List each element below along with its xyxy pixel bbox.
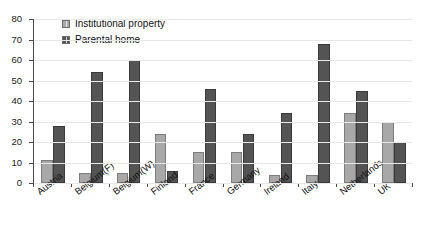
y-tick-label: 70 xyxy=(2,35,22,44)
y-gridline xyxy=(34,60,412,61)
y-gridline xyxy=(34,122,412,123)
legend: Institutional property Parental home xyxy=(62,17,165,49)
y-gridline xyxy=(34,142,412,143)
y-gridline xyxy=(34,81,412,82)
x-tick-mark xyxy=(412,183,413,187)
y-tick-label: 30 xyxy=(2,117,22,126)
legend-label: Institutional property xyxy=(75,19,165,29)
bar xyxy=(344,113,356,183)
y-tick-label: 50 xyxy=(2,76,22,85)
y-gridline xyxy=(34,101,412,102)
y-tick-label: 40 xyxy=(2,96,22,105)
y-gridline xyxy=(34,183,412,184)
bar xyxy=(205,89,217,183)
legend-swatch-icon xyxy=(62,20,70,28)
y-gridline xyxy=(34,40,412,41)
y-gridline xyxy=(34,163,412,164)
cropped-title xyxy=(0,0,427,7)
y-tick-label: 10 xyxy=(2,158,22,167)
y-tick-label: 80 xyxy=(2,14,22,23)
y-tick-label: 60 xyxy=(2,55,22,64)
bar-chart: 01020304050607080 AustriaBelgium(F)Belgi… xyxy=(0,0,427,244)
y-tick-label: 20 xyxy=(2,137,22,146)
bar xyxy=(382,122,394,184)
y-gridline xyxy=(34,19,412,20)
y-tick-label: 0 xyxy=(2,178,22,187)
